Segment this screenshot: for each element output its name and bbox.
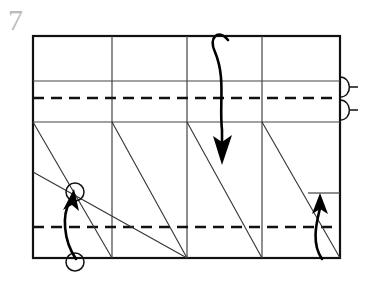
- origami-diagram: 7: [0, 0, 371, 294]
- pleat-hook-upper-icon: [340, 77, 349, 97]
- origami-diagram-canvas: 7: [0, 0, 371, 294]
- pleat-hook-lower-icon: [340, 100, 349, 120]
- step-number: 7: [8, 3, 23, 36]
- step-number-label: 7: [8, 3, 23, 36]
- pleat-hook-group: [340, 77, 358, 120]
